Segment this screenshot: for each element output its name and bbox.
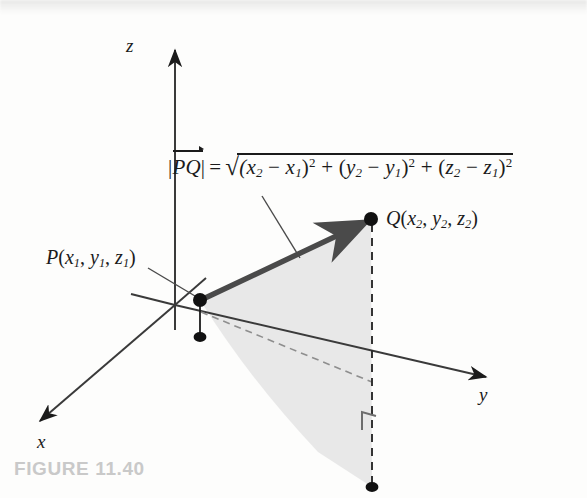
term2-close-paren: ) — [401, 155, 408, 179]
term3-b-sub: 1 — [492, 165, 499, 180]
term3-exponent: 2 — [506, 155, 513, 170]
term3-a-sub: 2 — [454, 165, 461, 180]
term1-a: x — [246, 155, 256, 179]
distance-formula: |PQ|=√(x2 − x1)2 + (y2 − y1)2 + (z2 − z1… — [168, 154, 513, 179]
y-axis-negative-stub — [131, 294, 175, 305]
point-p-projection-dot — [194, 332, 207, 342]
term3-a: z — [445, 155, 453, 179]
term1-close-paren: ) — [302, 155, 309, 179]
term3-b: z — [484, 155, 492, 179]
formula-leader-line — [262, 196, 300, 258]
point-q-close-paren: ) — [471, 207, 478, 229]
point-p-dot — [193, 293, 207, 307]
y-axis-label: y — [479, 385, 487, 404]
term1-exponent: 2 — [309, 155, 316, 170]
term1-minus: − — [263, 155, 286, 179]
equals-sign: = — [205, 155, 225, 179]
term3-minus: − — [461, 155, 484, 179]
point-p-comma-2: , — [105, 246, 115, 268]
plus-sign-2: + — [415, 155, 438, 179]
point-q-dot — [364, 212, 378, 226]
z-axis-label: z — [126, 36, 133, 55]
point-q-label: Q(x2, y2, z2) — [386, 208, 478, 231]
point-q-coord-x: x — [407, 207, 416, 229]
radical-sign: √ — [225, 154, 239, 179]
point-p-coord-x: x — [65, 246, 74, 268]
figure-caption: FIGURE 11.40 — [14, 458, 145, 480]
point-q-comma-2: , — [447, 207, 457, 229]
term2-b: y — [385, 155, 395, 179]
point-q-name: Q — [386, 207, 400, 229]
term1-a-sub: 2 — [256, 165, 263, 180]
term2-open-paren: ( — [339, 155, 346, 179]
point-p-open-paren: ( — [58, 246, 65, 268]
point-p-label: P(x1, y1, z1) — [46, 247, 136, 270]
point-q-coord-y: y — [432, 207, 441, 229]
point-p-comma-1: , — [80, 246, 90, 268]
point-p-coord-z: z — [115, 246, 123, 268]
point-p-name: P — [46, 246, 58, 268]
point-q-comma-1: , — [422, 207, 432, 229]
vector-pq-symbol: PQ — [172, 157, 200, 178]
term1-b-sub: 1 — [295, 165, 302, 180]
plus-sign-1: + — [316, 155, 339, 179]
figure-11-40: |PQ|=√(x2 − x1)2 + (y2 − y1)2 + (z2 − z1… — [0, 0, 587, 498]
x-axis — [40, 305, 175, 421]
term1-b: x — [286, 155, 296, 179]
p-label-leader-line — [148, 268, 195, 296]
term2-minus: − — [362, 155, 385, 179]
point-q-coord-z: z — [457, 207, 465, 229]
point-p-coord-y: y — [90, 246, 99, 268]
radicand: (x2 − x1)2 + (y2 − y1)2 + (z2 − z1)2 — [239, 154, 512, 179]
point-p-close-paren: ) — [129, 246, 136, 268]
point-q-projection-dot — [366, 482, 379, 492]
x-axis-label: x — [37, 432, 45, 451]
term3-close-paren: ) — [499, 155, 506, 179]
